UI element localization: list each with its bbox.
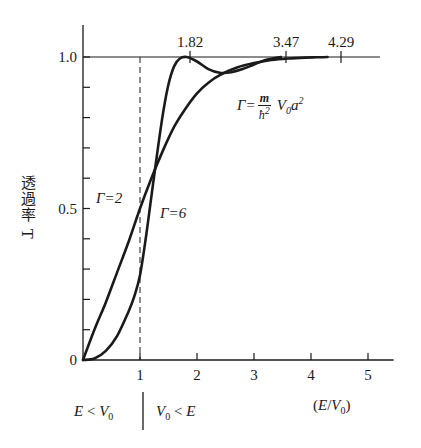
- x-tick-label: 5: [364, 367, 372, 383]
- region-left-label: E < V0: [74, 404, 113, 422]
- region-right-label: V0 < E: [156, 404, 195, 422]
- y-tick-label: 0.5: [58, 201, 77, 217]
- gamma6-label: Γ=6: [160, 206, 186, 221]
- formula-fraction: mħ2: [258, 92, 271, 121]
- x-tick-label: 4: [307, 367, 315, 383]
- top-marker-label: 4.29: [328, 34, 354, 50]
- x-tick-label: 3: [250, 367, 258, 383]
- x-tick-label: 2: [193, 367, 201, 383]
- tick-labels: 00.51.0123451.823.474.29: [58, 34, 372, 383]
- top-marker-label: 3.47: [273, 34, 300, 50]
- y-tick-label: 0: [70, 352, 78, 368]
- gamma2-label: Γ=2: [96, 191, 122, 206]
- x-tick-label: 1: [136, 367, 144, 383]
- top-marker-label: 1.82: [177, 34, 203, 50]
- transmission-chart: 00.51.0123451.823.474.29: [0, 0, 421, 448]
- x-axis-label: (E/V0): [313, 398, 351, 416]
- y-tick-label: 1.0: [58, 49, 77, 65]
- y-axis-label: 透過率 T: [12, 175, 38, 267]
- gamma-formula: Γ=mħ2 V0a2: [237, 92, 303, 121]
